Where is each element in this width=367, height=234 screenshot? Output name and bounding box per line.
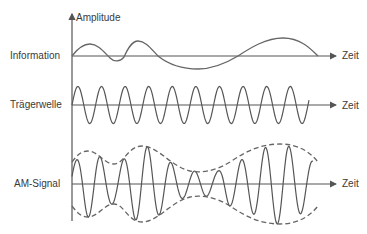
time-label-information: Zeit — [342, 50, 359, 62]
upper-envelope — [72, 144, 318, 172]
time-label-am-signal: Zeit — [342, 178, 359, 190]
diagram-canvas — [0, 0, 367, 234]
time-label-carrier: Zeit — [342, 100, 359, 112]
row-label-carrier: Trägerwelle — [10, 99, 62, 111]
amplitude-axis-label: Amplitude — [76, 12, 120, 24]
row-label-information: Information — [10, 50, 60, 62]
am-diagram: Amplitude Information Zeit Trägerwelle Z… — [0, 0, 367, 234]
am-signal-wave — [72, 146, 313, 223]
row-label-am-signal: AM-Signal — [14, 178, 60, 190]
information-wave — [72, 38, 318, 69]
